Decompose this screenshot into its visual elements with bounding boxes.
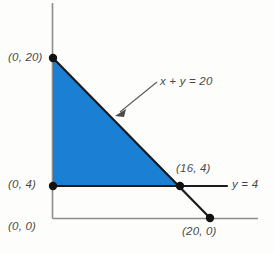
point-label-0-20: (0, 20)	[8, 52, 43, 64]
vertex-dot-0-4	[49, 182, 57, 190]
vertex-dot-16-4	[176, 182, 184, 190]
coordinate-plot	[0, 0, 274, 253]
figure-canvas: (0, 20) (0, 4) (0, 0) (16, 4) (20, 0) y …	[0, 0, 274, 253]
point-label-0-4: (0, 4)	[8, 179, 36, 191]
annotation-leader-line	[120, 82, 157, 112]
vertex-dot-20-0	[206, 214, 214, 222]
vertex-dot-0-20	[49, 54, 57, 62]
point-label-16-4: (16, 4)	[176, 163, 211, 175]
line-label-x-plus-y-equals-20: x + y = 20	[160, 76, 213, 88]
point-label-20-0: (20, 0)	[182, 226, 217, 238]
line-label-y-equals-4: y = 4	[232, 179, 258, 191]
point-label-origin: (0, 0)	[8, 221, 36, 233]
annotation-arrowhead-icon	[115, 109, 126, 117]
